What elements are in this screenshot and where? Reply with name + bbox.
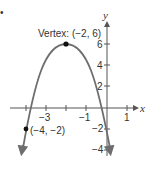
point-marker <box>24 127 29 132</box>
x-tick-label: −1 <box>79 112 91 123</box>
y-tick-label: 6 <box>97 39 103 50</box>
vertex-label: Vertex: (−2, 6) <box>38 28 101 39</box>
curve-arrow-left <box>22 145 23 151</box>
x-axis-label: x <box>139 102 145 114</box>
point-label: (−4, −2) <box>30 125 65 136</box>
x-tick-label: 1 <box>124 112 130 123</box>
curve-arrow-right <box>109 145 110 151</box>
y-tick-label: −4 <box>92 144 104 155</box>
y-axis-label: y <box>102 9 108 21</box>
x-tick-label: −3 <box>39 112 51 123</box>
parabola-graph: • x y −3 −1 1 6 4 2 −2 −4 Vertex: (−2, 6… <box>0 0 154 178</box>
vertex-point <box>63 41 68 46</box>
item-marker: • <box>0 7 4 18</box>
y-tick-label: −2 <box>92 123 104 134</box>
y-tick-label: 4 <box>97 60 103 71</box>
